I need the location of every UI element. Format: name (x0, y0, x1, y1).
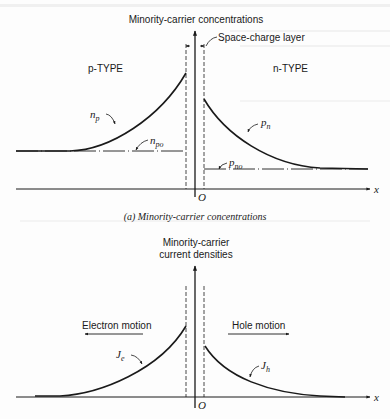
np-label: np (90, 108, 100, 123)
je-leader (131, 355, 142, 364)
space-charge-leader (206, 37, 217, 46)
je-label: Je (116, 348, 125, 363)
np-leader (106, 114, 115, 124)
panel-a-y-axis-label: Minority-carrier concentrations (129, 14, 264, 25)
panel-a-caption: (a) Minority-carrier concentrations (124, 211, 267, 223)
electron-motion-label: Electron motion (82, 320, 151, 331)
npo-leader (136, 140, 148, 150)
p-type-label: p-TYPE (88, 63, 123, 74)
panel-a-x-label: x (373, 183, 379, 195)
pn-label: pn (260, 116, 271, 131)
npo-label: npo (150, 134, 164, 149)
jh-label: Jh (261, 359, 270, 374)
n-type-label: n-TYPE (273, 63, 308, 74)
jh-leader (250, 366, 259, 377)
panel-a-origin-label: O (198, 191, 206, 203)
pno-leader (219, 163, 227, 169)
panel-b-x-label: x (373, 391, 379, 403)
je-curve (35, 326, 186, 396)
panel-b-origin-label: O (198, 399, 206, 411)
panel-b-y-axis-label-line1: Minority-carrier (163, 237, 230, 248)
panel-b-y-axis-label-line2: current densities (159, 249, 232, 260)
space-charge-label: Space-charge layer (218, 32, 305, 43)
jh-curve (205, 346, 345, 397)
pn-junction-diagram: Minority-carrier concentrations Space-ch… (0, 0, 390, 419)
pn-leader (248, 124, 258, 132)
panel-b-current-densities: Minority-carrier current densities Elect… (16, 237, 379, 411)
hole-motion-label: Hole motion (232, 320, 285, 331)
pno-label: pno (228, 156, 243, 171)
